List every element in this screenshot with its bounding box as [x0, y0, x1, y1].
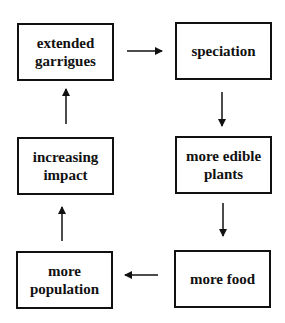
arrows-layer: [0, 0, 285, 323]
